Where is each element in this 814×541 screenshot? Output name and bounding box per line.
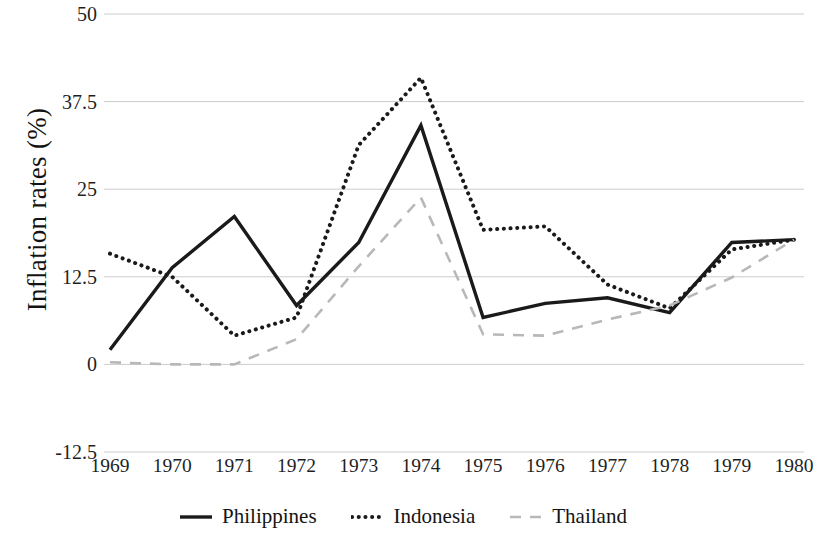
series-line-philippines xyxy=(110,125,794,349)
chart-legend: PhilippinesIndonesiaThailand xyxy=(0,504,806,529)
legend-item-indonesia[interactable]: Indonesia xyxy=(351,504,476,529)
dashed-line-icon xyxy=(509,511,543,523)
x-tick-label: 1974 xyxy=(401,455,440,477)
x-tick-label: 1980 xyxy=(775,455,814,477)
x-tick-label: 1973 xyxy=(339,455,378,477)
x-tick-label: 1972 xyxy=(277,455,316,477)
x-tick-label: 1977 xyxy=(588,455,627,477)
x-tick-label: 1971 xyxy=(215,455,254,477)
x-tick-label: 1975 xyxy=(464,455,503,477)
x-tick-label: 1979 xyxy=(712,455,751,477)
legend-label: Thailand xyxy=(552,504,627,529)
solid-line-icon xyxy=(179,511,213,523)
legend-label: Indonesia xyxy=(394,504,476,529)
legend-label: Philippines xyxy=(222,504,317,529)
dotted-line-icon xyxy=(351,511,385,523)
legend-item-thailand[interactable]: Thailand xyxy=(509,504,627,529)
x-tick-label: 1970 xyxy=(153,455,192,477)
x-tick-label: 1976 xyxy=(526,455,565,477)
x-tick-label: 1978 xyxy=(650,455,689,477)
legend-item-philippines[interactable]: Philippines xyxy=(179,504,317,529)
x-tick-label: 1969 xyxy=(91,455,130,477)
